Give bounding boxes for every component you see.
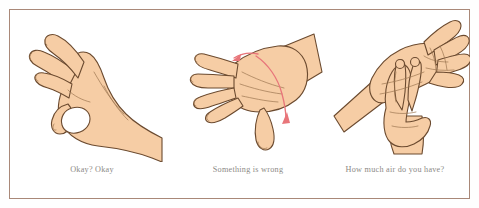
hand-flat-rocking-illustration [168,12,328,162]
caption-air: How much air do you have? [320,165,470,174]
panel-wrong: Something is wrong [168,10,328,198]
panel-okay: Okay? Okay [12,10,172,198]
hand-ok-sign-illustration [12,12,172,162]
fingertip-contact-2 [411,58,420,67]
two-hands-air-signal-illustration [320,12,470,162]
panel-air: How much air do you have? [320,10,470,198]
caption-okay: Okay? Okay [12,165,172,174]
figure-frame: Okay? Okay [9,9,470,199]
open-palm-finger-4 [429,72,464,88]
dive-hand-signals-figure: Okay? Okay [0,0,479,208]
flat-hand-middle-finger [190,74,234,88]
caption-wrong: Something is wrong [168,165,328,174]
fingertip-contact-1 [396,60,405,69]
